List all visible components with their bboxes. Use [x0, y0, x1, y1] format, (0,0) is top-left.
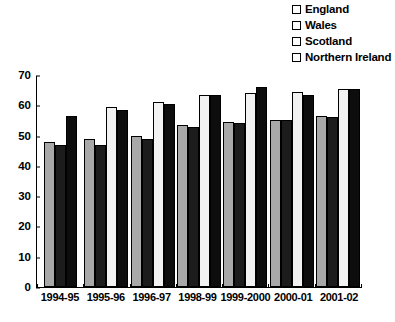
bar-wales-1999-2000 — [234, 123, 245, 287]
bar-ni-1994-95 — [66, 116, 77, 287]
bar-group-1996-97 — [130, 76, 176, 287]
bar-group-1999-2000 — [222, 76, 268, 287]
x-axis-label-2000-01: 2000-01 — [270, 292, 316, 303]
bar-scotland-1995-96 — [106, 107, 117, 287]
bar-scotland-2001-02 — [338, 89, 349, 287]
y-tick-label-70: 70 — [18, 70, 31, 82]
bar-england-2000-01 — [270, 120, 281, 287]
x-tick-mark-1 — [83, 284, 84, 288]
bar-scotland-1999-2000 — [245, 93, 256, 287]
bar-wales-1996-97 — [142, 139, 153, 287]
bar-wales-2000-01 — [281, 120, 292, 287]
x-axis-label-1999-2000: 1999-2000 — [220, 292, 270, 303]
x-tick-mark-5 — [268, 284, 269, 288]
y-tick-label-30: 30 — [18, 191, 31, 203]
legend-item-scotland: Scotland — [292, 34, 391, 49]
plot-area: 010203040506070 — [36, 76, 361, 288]
y-tick-label-60: 60 — [18, 101, 31, 113]
bar-ni-1995-96 — [117, 110, 128, 287]
legend-swatch-wales-icon — [292, 21, 301, 30]
bar-ni-2000-01 — [303, 95, 314, 287]
bar-group-1994-95 — [37, 76, 83, 287]
legend-item-northern-ireland: Northern Ireland — [292, 50, 391, 65]
x-axis-label-2001-02: 2001-02 — [316, 292, 362, 303]
legend-swatch-england-icon — [292, 5, 301, 14]
bar-wales-1994-95 — [55, 145, 66, 287]
legend-label-england: England — [305, 4, 349, 16]
bar-ni-1996-97 — [164, 104, 175, 287]
x-tick-mark-7 — [361, 284, 362, 288]
bar-wales-1998-99 — [188, 127, 199, 288]
bar-group-2000-01 — [268, 76, 314, 287]
x-tick-mark-6 — [315, 284, 316, 288]
bar-england-1995-96 — [84, 139, 95, 287]
y-tick-label-50: 50 — [18, 131, 31, 143]
chart-footnote — [30, 313, 360, 320]
legend-swatch-scotland-icon — [292, 37, 301, 46]
bar-group-1995-96 — [83, 76, 129, 287]
y-tick-label-10: 10 — [18, 252, 31, 264]
legend-swatch-northern-ireland-icon — [292, 53, 301, 62]
x-tick-mark-0 — [37, 284, 38, 288]
legend-label-wales: Wales — [305, 20, 337, 32]
bar-ni-1999-2000 — [256, 87, 267, 287]
x-axis-labels: 1994-951995-961996-971998-991999-2000200… — [37, 292, 362, 303]
bar-england-1998-99 — [177, 125, 188, 287]
bar-wales-1995-96 — [95, 145, 106, 287]
x-tick-mark-2 — [130, 284, 131, 288]
chart-page: England Wales Scotland Northern Ireland … — [0, 0, 395, 322]
bar-england-1994-95 — [44, 142, 55, 287]
x-axis-label-1995-96: 1995-96 — [83, 292, 129, 303]
bar-ni-2001-02 — [349, 89, 360, 287]
bar-england-1996-97 — [131, 136, 142, 287]
x-tick-mark-3 — [176, 284, 177, 288]
x-axis-label-1994-95: 1994-95 — [37, 292, 83, 303]
legend-item-wales: Wales — [292, 18, 391, 33]
legend-label-scotland: Scotland — [305, 36, 352, 48]
bar-england-2001-02 — [316, 116, 327, 287]
bar-scotland-2000-01 — [292, 92, 303, 287]
legend-item-england: England — [292, 2, 391, 17]
x-axis-line — [36, 287, 361, 288]
y-tick-label-20: 20 — [18, 222, 31, 234]
bar-groups — [37, 76, 361, 287]
y-tick-label-40: 40 — [18, 161, 31, 173]
bar-group-2001-02 — [315, 76, 361, 287]
bar-england-1999-2000 — [223, 122, 234, 287]
x-axis-label-1996-97: 1996-97 — [129, 292, 175, 303]
bar-ni-1998-99 — [210, 95, 221, 287]
y-tick-label-0: 0 — [25, 282, 31, 294]
bar-scotland-1996-97 — [153, 102, 164, 287]
x-axis-label-1998-99: 1998-99 — [175, 292, 221, 303]
bar-wales-2001-02 — [327, 117, 338, 287]
legend-label-northern-ireland: Northern Ireland — [305, 52, 391, 64]
chart-legend: England Wales Scotland Northern Ireland — [292, 2, 391, 66]
x-tick-mark-4 — [222, 284, 223, 288]
bar-group-1998-99 — [176, 76, 222, 287]
bar-scotland-1998-99 — [199, 95, 210, 287]
